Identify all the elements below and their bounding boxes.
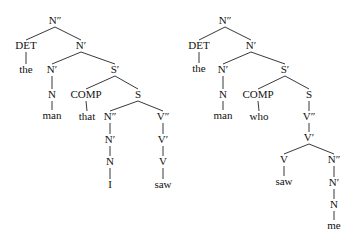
tree-node-label: S [135, 88, 141, 100]
tree-node-label: V [159, 155, 167, 167]
tree-node-label: COMP [70, 88, 101, 100]
tree-node-label: N′ [218, 63, 228, 75]
tree-node-label: COMP [242, 88, 273, 100]
tree-node-label: saw [275, 175, 292, 187]
tree-node-label: N″ [49, 14, 62, 26]
tree-node-label: V [280, 153, 288, 165]
tree-node-label: V′ [304, 131, 314, 143]
tree-node-label: N″ [219, 14, 232, 26]
tree-node-label: V″ [303, 110, 316, 122]
tree-node-label: S [306, 88, 312, 100]
tree-node-label: S′ [281, 63, 290, 75]
tree-node-label: DET [188, 39, 210, 51]
tree-node-label: DET [15, 39, 37, 51]
tree-node-label: N [219, 88, 227, 100]
tree-node-label: V″ [157, 110, 170, 122]
right-tree: N″DETtheN′N′NmanS′COMPwhoSV″V′VsawN″N′Nm… [188, 14, 341, 231]
tree-node-label: me [327, 219, 341, 231]
tree-node-label: N′ [47, 63, 57, 75]
tree-node-label: N [48, 88, 56, 100]
tree-node-label: that [79, 110, 96, 122]
tree-node-label: saw [154, 178, 171, 190]
tree-node-label: N″ [104, 110, 117, 122]
tree-node-label: the [192, 62, 206, 74]
tree-node-label: the [19, 63, 33, 75]
left-tree: N″DETtheN′N′NmanS′COMPthatSN″N′NIV″V′Vsa… [15, 14, 171, 190]
tree-node-label: N′ [329, 176, 339, 188]
tree-node-label: N′ [105, 133, 115, 145]
tree-node-label: N [330, 198, 338, 210]
syntax-tree-diagram: N″DETtheN′N′NmanS′COMPthatSN″N′NIV″V′Vsa… [0, 0, 358, 240]
tree-node-label: who [250, 110, 269, 122]
tree-node-label: man [43, 109, 62, 121]
tree-node-label: S′ [111, 63, 120, 75]
tree-node-label: N′ [246, 39, 256, 51]
tree-node-label: man [214, 109, 233, 121]
tree-node-label: N″ [328, 153, 341, 165]
tree-node-label: N′ [76, 39, 86, 51]
tree-node-label: N [106, 155, 114, 167]
tree-node-label: I [108, 178, 112, 190]
tree-node-label: V′ [158, 133, 168, 145]
